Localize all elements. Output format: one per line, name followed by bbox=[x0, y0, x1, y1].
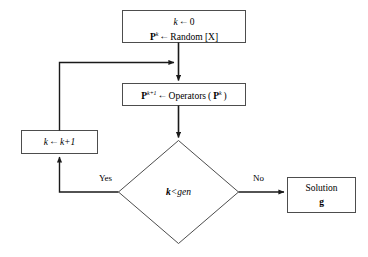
solution-box bbox=[288, 178, 356, 213]
flowchart-diagram: k←0 Pk←Random [X] Pk+1←Operators(Pk) k←k… bbox=[0, 0, 368, 257]
edge-condition-yes-to-increment bbox=[60, 157, 119, 192]
increment-box bbox=[22, 131, 98, 154]
flowchart-canvas bbox=[0, 0, 368, 257]
condition-diamond bbox=[119, 141, 239, 244]
init-box bbox=[123, 11, 246, 43]
operators-box bbox=[123, 84, 246, 106]
